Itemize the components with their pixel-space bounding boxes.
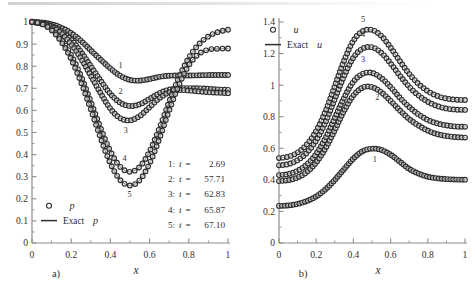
svg-text:0.4: 0.4 (16, 149, 28, 160)
svg-text:0.2: 0.2 (310, 249, 322, 260)
legend-label-exact-p: Exact (63, 216, 85, 226)
svg-text:1.2: 1.2 (263, 48, 275, 59)
svg-text:1.4: 1.4 (263, 16, 275, 27)
panel-a-plot: 00.10.20.30.40.50.60.70.80.9100.20.40.60… (0, 0, 238, 289)
legend-panel-b: uExactu (265, 24, 322, 50)
time-row-value-4: 65.87 (204, 205, 225, 215)
time-row-eq-4: = (186, 205, 191, 215)
svg-text:0: 0 (270, 237, 275, 248)
figure-container: 00.10.20.30.40.50.60.70.80.9100.20.40.60… (0, 0, 475, 289)
time-row-eq-3: = (186, 189, 191, 199)
svg-text:0.2: 0.2 (65, 249, 77, 260)
legend-label-exact-p-var: p (92, 215, 98, 226)
legend-label-exact-u-var: u (317, 39, 322, 50)
svg-text:0.4: 0.4 (263, 174, 275, 185)
curve-number-4: 4 (122, 154, 126, 163)
svg-text:0.2: 0.2 (16, 193, 28, 204)
svg-text:0: 0 (277, 249, 282, 260)
time-row-value-5: 67.10 (204, 220, 225, 230)
time-row-value-1: 2.69 (209, 159, 225, 169)
legend-label-p: p (68, 200, 74, 211)
time-row-var-3: t (179, 189, 182, 199)
curve-number-2: 2 (375, 93, 379, 102)
svg-text:0.2: 0.2 (263, 206, 275, 217)
time-row-var-1: t (179, 159, 182, 169)
svg-text:0.6: 0.6 (16, 105, 28, 116)
svg-text:0.8: 0.8 (16, 61, 28, 72)
svg-text:0.7: 0.7 (16, 83, 28, 94)
panel-a: 00.10.20.30.40.50.60.70.80.9100.20.40.60… (0, 0, 238, 289)
panel-b: 00.20.40.60.811.21.400.20.40.60.81x12345… (237, 0, 475, 289)
svg-text:1: 1 (463, 249, 468, 260)
svg-text:0.3: 0.3 (16, 171, 28, 182)
svg-text:0.6: 0.6 (385, 249, 397, 260)
svg-text:0.4: 0.4 (347, 249, 359, 260)
svg-text:x: x (132, 264, 139, 276)
svg-text:0.9: 0.9 (16, 39, 28, 50)
legend-open-circle-icon (271, 27, 276, 32)
legend-open-circle-icon (47, 203, 52, 208)
time-row-index-2: 2: (168, 174, 175, 184)
curve-number-5: 5 (361, 15, 365, 24)
svg-text:0.8: 0.8 (422, 249, 434, 260)
curve-number-1: 1 (373, 155, 377, 164)
curve-number-4: 4 (361, 30, 365, 39)
curve-number-5: 5 (128, 190, 132, 199)
time-row-var-5: t (179, 220, 182, 230)
time-row-eq-1: = (186, 159, 191, 169)
legend-panel-a: pExactp (41, 200, 98, 226)
svg-text:0.5: 0.5 (16, 127, 28, 138)
time-row-value-3: 62.83 (204, 189, 225, 199)
curve-number-3: 3 (361, 55, 365, 64)
panel-label-a: a) (52, 268, 61, 280)
svg-text:0.1: 0.1 (16, 215, 28, 226)
time-row-index-4: 4: (168, 205, 175, 215)
svg-text:0.6: 0.6 (263, 143, 275, 154)
time-row-var-2: t (179, 174, 182, 184)
curve-number-1: 1 (119, 61, 123, 70)
time-row-value-2: 57.71 (204, 174, 225, 184)
svg-text:1: 1 (23, 16, 28, 27)
panel-label-b: b) (299, 268, 308, 280)
svg-text:0: 0 (30, 249, 35, 260)
time-row-eq-5: = (186, 220, 191, 230)
time-row-index-3: 3: (168, 189, 175, 199)
svg-text:x: x (374, 264, 381, 276)
panel-b-plot: 00.20.40.60.811.21.400.20.40.60.81x12345… (237, 0, 475, 289)
time-row-eq-2: = (186, 174, 191, 184)
svg-text:1: 1 (270, 80, 275, 91)
time-legend-panel-a: 1:t=2.692:t=57.713:t=62.834:t=65.875:t=6… (168, 159, 225, 230)
time-row-var-4: t (179, 205, 182, 215)
time-row-index-5: 5: (168, 220, 175, 230)
legend-label-u: u (293, 24, 298, 35)
time-row-index-1: 1: (168, 159, 175, 169)
svg-text:0.8: 0.8 (263, 111, 275, 122)
legend-label-exact-u: Exact (287, 40, 309, 50)
svg-text:0.8: 0.8 (183, 249, 195, 260)
svg-text:1: 1 (226, 249, 231, 260)
curve-number-3: 3 (124, 126, 128, 135)
curve-number-2: 2 (119, 87, 123, 96)
svg-text:0.6: 0.6 (144, 249, 156, 260)
svg-text:0.4: 0.4 (104, 249, 116, 260)
svg-text:0: 0 (23, 237, 28, 248)
